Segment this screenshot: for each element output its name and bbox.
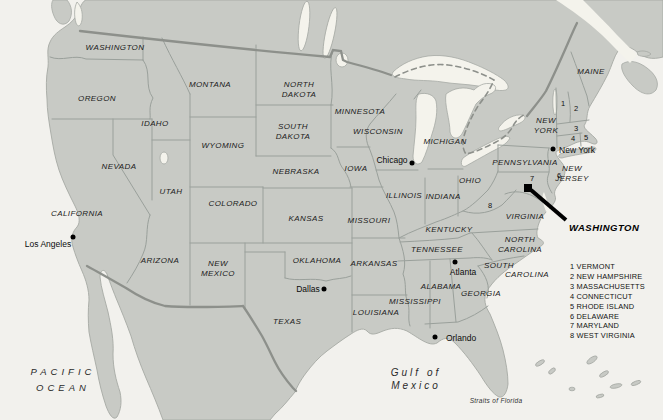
city-dot-los-angeles: [71, 235, 76, 240]
city-dot-orlando: [433, 335, 438, 340]
legend-item-1: 1 VERMONT: [570, 262, 645, 272]
city-dot-atlanta: [453, 260, 458, 265]
gulf-of-mexico-label: Gulf of Mexico: [391, 366, 441, 392]
capital-label: WASHINGTON: [569, 222, 639, 233]
city-dot-chicago: [410, 161, 415, 166]
bahama-island: [569, 387, 575, 391]
great-salt-lake: [160, 152, 168, 164]
small-states-legend: 1 VERMONT2 NEW HAMPSHIRE3 MASSACHUSETTS4…: [570, 262, 645, 341]
legend-item-2: 2 NEW HAMPSHIRE: [570, 272, 645, 282]
legend-item-4: 4 CONNECTICUT: [570, 292, 645, 302]
capital-marker-square: [524, 184, 532, 192]
straits-of-florida-label: Straits of Florida: [470, 397, 523, 404]
legend-item-3: 3 MASSACHUSETTS: [570, 282, 645, 292]
legend-item-8: 8 WEST VIRGINIA: [570, 331, 645, 341]
legend-item-5: 5 RHODE ISLAND: [570, 302, 645, 312]
city-dot-dallas: [322, 287, 327, 292]
city-dot-new-york-city: [551, 147, 556, 152]
us-map-stage: WASHINGTONOREGONIDAHOMONTANANORTH DAKOTA…: [0, 0, 663, 420]
us-map-canvas: [0, 0, 663, 420]
legend-item-7: 7 MARYLAND: [570, 321, 645, 331]
pacific-ocean-label: PACIFIC OCEAN: [31, 364, 96, 395]
legend-item-6: 6 DELAWARE: [570, 312, 645, 322]
